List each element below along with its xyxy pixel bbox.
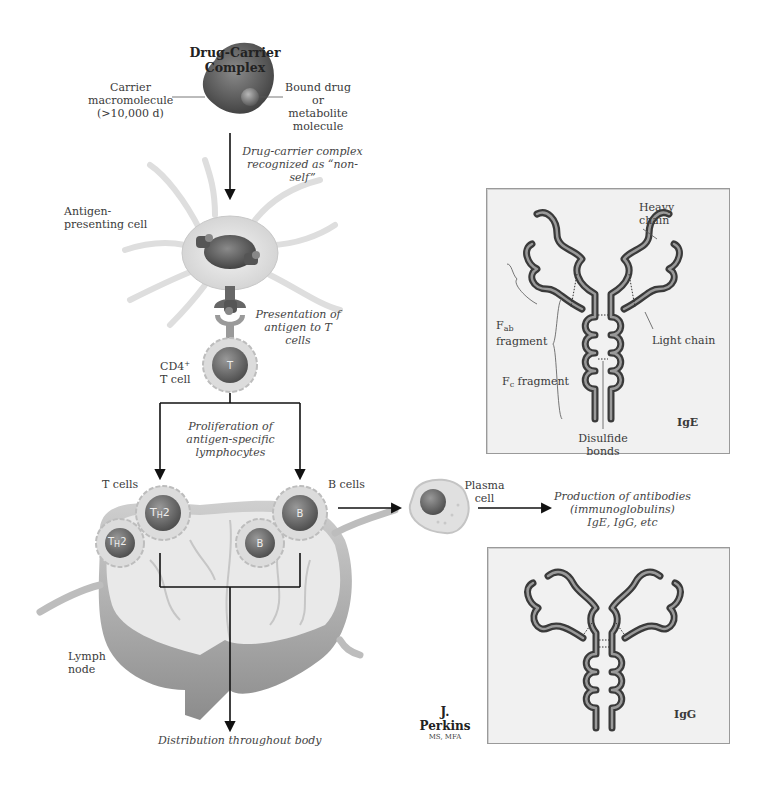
distribution-label: Distribution throughout body bbox=[158, 734, 322, 747]
heavy-chain-label: Heavychain bbox=[639, 201, 674, 227]
th2-label-small: TH2 bbox=[108, 536, 127, 549]
b-cell-large: B bbox=[273, 486, 327, 540]
ige-label: IgE bbox=[677, 416, 698, 429]
fab-fragment-label: Fab fragment bbox=[496, 319, 547, 348]
th2-label-large: TH2 bbox=[150, 506, 170, 520]
igg-label: IgG bbox=[674, 708, 696, 721]
disulfide-bonds-label: Disulfide bonds bbox=[563, 432, 643, 458]
signature: J. Perkins MS, MFA bbox=[415, 705, 475, 741]
apc-label: Antigen-presenting cell bbox=[64, 205, 147, 231]
ige-panel: Heavychain Light chain Fab fragment Fc f… bbox=[486, 188, 730, 454]
t-cells-label: T cells bbox=[102, 478, 138, 491]
lymph-node-label: Lymphnode bbox=[68, 650, 106, 676]
svg-text:B: B bbox=[257, 538, 264, 549]
light-chain-label: Light chain bbox=[652, 334, 715, 347]
svg-text:B: B bbox=[297, 508, 304, 519]
recognized-label: Drug-carrier complexrecognized as “non-s… bbox=[240, 145, 365, 184]
proliferation-label: Proliferation ofantigen-specificlymphocy… bbox=[178, 420, 283, 459]
igg-panel: IgG bbox=[487, 547, 730, 744]
bound-drug-label: Bound drugor metabolitemolecule bbox=[283, 81, 353, 133]
cd4-t-cell: T bbox=[203, 338, 257, 392]
signature-name: J. Perkins bbox=[415, 705, 475, 733]
plasma-cell-label: Plasmacell bbox=[462, 479, 507, 505]
svg-text:T: T bbox=[226, 360, 234, 371]
b-cells-label: B cells bbox=[328, 478, 365, 491]
fc-fragment-label: Fc fragment bbox=[502, 375, 569, 391]
cd4-t-cell-label: CD4+ T cell bbox=[160, 358, 191, 386]
figure-title: Drug-Carrier Complex bbox=[170, 45, 300, 75]
presentation-label: Presentation ofantigen to T cells bbox=[253, 308, 343, 347]
production-label: Production of antibodies(immunoglobulins… bbox=[550, 490, 695, 529]
plasma-cell bbox=[410, 480, 469, 533]
lymph-node bbox=[40, 501, 395, 720]
carrier-label: Carriermacromolecule(>10,000 d) bbox=[88, 81, 173, 120]
signature-credentials: MS, MFA bbox=[415, 733, 475, 741]
